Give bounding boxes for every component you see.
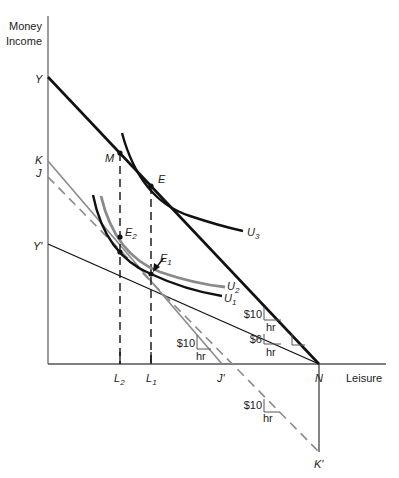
budget-line-j-k-prime bbox=[48, 177, 319, 452]
slope-value-jk-prime: $10 bbox=[244, 399, 262, 411]
label-y-prime: Y' bbox=[33, 240, 43, 252]
slope-unit-jk-prime: hr bbox=[263, 412, 273, 424]
label-k: K bbox=[35, 154, 43, 166]
budget-line-y-n bbox=[48, 77, 319, 364]
label-e: E bbox=[158, 173, 166, 185]
slope-triangle-y-prime-n bbox=[264, 334, 281, 344]
label-j: J bbox=[35, 167, 42, 179]
y-axis-label-line2: Income bbox=[6, 35, 42, 47]
slope-value-yn: $10 bbox=[244, 308, 262, 320]
point-y-prime-line-at-l2 bbox=[117, 249, 122, 254]
label-e2: E2 bbox=[125, 226, 137, 241]
label-m: M bbox=[105, 152, 115, 164]
slope-value-kj-prime: $10 bbox=[177, 337, 195, 349]
budget-line-k-j-prime bbox=[48, 161, 222, 364]
slope-triangle-jk-prime bbox=[264, 399, 280, 412]
label-j-prime: J' bbox=[216, 372, 226, 384]
label-y: Y bbox=[35, 73, 43, 85]
label-l2: L2 bbox=[114, 372, 125, 387]
label-u3: U3 bbox=[247, 226, 260, 241]
indifference-curve-u3 bbox=[122, 133, 243, 231]
labor-leisure-diagram: Money Income Leisure Y K J Y' M E E2 E1 … bbox=[0, 0, 399, 478]
point-e1 bbox=[148, 271, 153, 276]
slope-unit-yn: hr bbox=[266, 321, 276, 333]
slope-unit-y-prime-n: hr bbox=[266, 346, 276, 358]
point-e bbox=[148, 183, 153, 188]
point-e2 bbox=[117, 234, 122, 239]
label-n: N bbox=[315, 372, 323, 384]
label-e1: E1 bbox=[160, 252, 172, 267]
x-axis-label: Leisure bbox=[346, 372, 382, 384]
label-l1: L1 bbox=[146, 372, 157, 387]
y-axis-label-line1: Money bbox=[9, 20, 43, 32]
slope-unit-kj-prime: hr bbox=[196, 350, 206, 362]
point-m bbox=[117, 150, 122, 155]
label-k-prime: K' bbox=[314, 458, 324, 470]
indifference-curve-u1 bbox=[93, 195, 222, 296]
slope-value-y-prime-n: $6 bbox=[250, 333, 262, 345]
